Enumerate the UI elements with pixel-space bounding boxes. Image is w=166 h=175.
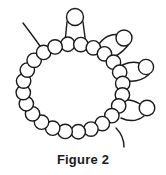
- main-bead-ring: [16, 37, 130, 139]
- ring-bead: [48, 40, 62, 54]
- figure-container: Figure 2: [0, 0, 166, 175]
- upper-right-branch-loop-bead: [116, 30, 132, 46]
- middle-right-branch-loop-bead: [138, 59, 153, 74]
- upper-left-tail: [23, 23, 40, 46]
- bead-chain-diagram: [0, 0, 166, 152]
- ring-bead: [61, 37, 75, 51]
- ring-bead: [84, 122, 98, 136]
- lower-right-tail: [116, 128, 124, 147]
- lower-right-branch-loop-bead: [139, 100, 155, 116]
- top-stalk-loop-bead: [67, 9, 84, 26]
- loop-strand-lines: [65, 22, 150, 121]
- figure-caption: Figure 2: [0, 152, 166, 168]
- lower-right-branch-loop-strand-2: [121, 116, 144, 121]
- ring-bead: [71, 125, 85, 139]
